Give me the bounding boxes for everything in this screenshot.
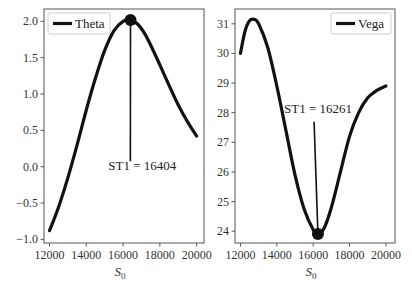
optimum-marker [125,14,137,26]
x-axis-label: S0 [306,264,318,281]
x-tick-label: 12000 [225,248,255,262]
annotation-label: ST1 = 16261 [284,101,352,116]
x-tick-label: 18000 [145,248,175,262]
legend-label: Theta [75,16,105,31]
y-tick-label: 2.0 [23,14,38,28]
y-tick-label: −1.0 [16,232,38,246]
y-tick-label: 29 [217,76,229,90]
x-tick-label: 20000 [182,248,212,262]
y-tick-label: 1.0 [23,87,38,101]
y-tick-label: 0.5 [23,123,38,137]
x-tick-label: 12000 [35,248,65,262]
vega-chart: 3130292827262524120001400016000180002000… [217,9,401,281]
x-tick-label: 16000 [108,248,138,262]
figure: 2.01.51.00.50.0−0.5−1.012000140001600018… [0,0,412,286]
y-tick-label: 26 [217,165,229,179]
y-tick-label: 30 [217,46,229,60]
legend: Vega [331,13,391,34]
x-tick-label: 20000 [371,248,401,262]
axes-frame [44,9,204,243]
y-tick-label: 31 [217,17,229,31]
y-tick-label: −0.5 [16,196,38,210]
x-axis-label: S0 [115,264,127,281]
legend-label: Vega [358,16,384,31]
theta-chart: 2.01.51.00.50.0−0.5−1.012000140001600018… [16,9,211,281]
y-tick-label: 28 [217,106,229,120]
y-tick-label: 24 [217,224,229,238]
optimum-marker [312,228,324,240]
y-tick-label: 0.0 [23,160,38,174]
legend: Theta [48,13,110,34]
y-tick-label: 27 [217,135,229,149]
x-tick-label: 14000 [262,248,292,262]
x-tick-label: 16000 [298,248,328,262]
y-tick-label: 1.5 [23,51,38,65]
x-tick-label: 18000 [335,248,365,262]
x-tick-label: 14000 [71,248,101,262]
y-tick-label: 25 [217,195,229,209]
annotation-label: ST1 = 16404 [108,158,177,173]
